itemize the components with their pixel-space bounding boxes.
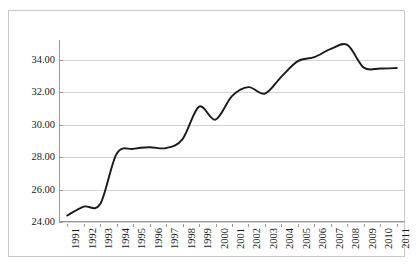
x-axis-tick-label: 2001 (236, 228, 247, 249)
x-axis-tick-label: 1994 (121, 228, 132, 249)
x-axis-tick-label: 2003 (269, 228, 280, 249)
x-axis-tick (216, 224, 217, 227)
x-axis-tick (281, 224, 282, 227)
y-axis-tick (59, 222, 63, 223)
x-axis-tick-label: 2002 (252, 228, 263, 249)
y-axis-tick-label: 24.00 (11, 217, 55, 228)
y-axis-tick-label: 26.00 (11, 184, 55, 195)
x-axis-tick-label: 2000 (220, 228, 231, 249)
x-axis-tick (100, 224, 101, 227)
x-axis-tick (67, 224, 68, 227)
y-axis-labels: 24.0026.0028.0030.0032.0034.00 (9, 40, 55, 222)
x-axis-tick-label: 1997 (170, 228, 181, 249)
x-axis-tick-label: 2006 (318, 228, 329, 249)
x-axis-tick (232, 224, 233, 227)
x-axis-tick-label: 2010 (384, 228, 395, 249)
gridline (59, 222, 405, 223)
x-axis-tick (364, 224, 365, 227)
x-axis-tick (166, 224, 167, 227)
x-axis-tick (248, 224, 249, 227)
x-axis-tick-label: 2007 (335, 228, 346, 249)
x-axis-tick-label: 2005 (302, 228, 313, 249)
x-axis-tick-label: 2009 (368, 228, 379, 249)
x-axis-tick (199, 224, 200, 227)
x-axis-tick-label: 2008 (351, 228, 362, 249)
plot-area (59, 40, 405, 222)
x-axis-tick-label: 1991 (71, 228, 82, 249)
data-series-line (59, 40, 405, 222)
x-axis-tick (265, 224, 266, 227)
x-axis-tick-label: 2004 (285, 228, 296, 249)
x-axis-tick-label: 1996 (154, 228, 165, 249)
x-axis-tick (397, 224, 398, 227)
y-axis-tick-label: 34.00 (11, 54, 55, 65)
x-axis-tick-label: 2011 (401, 228, 412, 249)
x-axis-tick-label: 1993 (104, 228, 115, 249)
x-axis-tick-label: 1995 (137, 228, 148, 249)
x-axis-tick (298, 224, 299, 227)
x-axis-tick (133, 224, 134, 227)
x-axis-labels: 1991199219931994199519961997199819992000… (59, 224, 405, 264)
y-axis-tick-label: 28.00 (11, 152, 55, 163)
x-axis-tick (331, 224, 332, 227)
x-axis-tick-label: 1999 (203, 228, 214, 249)
x-axis-tick (347, 224, 348, 227)
x-axis-tick (183, 224, 184, 227)
x-axis-tick-label: 1998 (187, 228, 198, 249)
x-axis-tick (314, 224, 315, 227)
y-axis-tick-label: 32.00 (11, 87, 55, 98)
y-axis-tick-label: 30.00 (11, 119, 55, 130)
x-axis-tick (84, 224, 85, 227)
series-path (67, 44, 397, 216)
x-axis-tick-label: 1992 (88, 228, 99, 249)
x-axis-tick (150, 224, 151, 227)
x-axis-tick (117, 224, 118, 227)
chart-frame: 24.0026.0028.0030.0032.0034.00 199119921… (8, 10, 405, 257)
x-axis-tick (380, 224, 381, 227)
